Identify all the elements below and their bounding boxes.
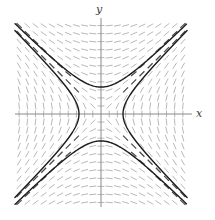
slope-field-plot bbox=[0, 0, 215, 220]
slope-field-figure: y x bbox=[0, 0, 215, 220]
y-axis-label: y bbox=[96, 4, 102, 15]
x-axis-label: x bbox=[196, 108, 202, 119]
